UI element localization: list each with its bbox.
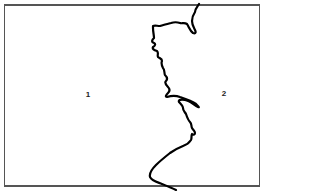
boundary-line bbox=[150, 4, 199, 190]
region-label-2: 2 bbox=[222, 90, 226, 98]
region-label-1: 1 bbox=[86, 91, 90, 99]
